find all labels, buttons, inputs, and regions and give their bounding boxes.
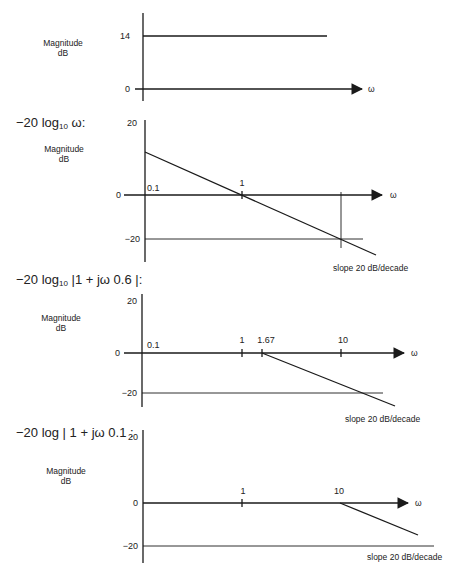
plot-integrator: −20 log10 ω: Magnitude dB 20 0 −20 ω 0.1…: [16, 115, 408, 273]
slope-line: [262, 353, 395, 406]
plot-title: −20 log10 ω:: [16, 115, 85, 131]
y-tick-0: 0: [133, 498, 138, 508]
y-tick-0: 0: [125, 84, 130, 94]
plot-constant: Magnitude dB 14 0 ω: [43, 13, 375, 101]
x-tick-10: 10: [338, 335, 348, 345]
slope-label: slope 20 dB/decade: [367, 552, 442, 562]
bode-diagram: Magnitude dB 14 0 ω −20 log10 ω: Magnitu…: [0, 0, 451, 563]
omega-label: ω: [390, 190, 397, 200]
y-axis-label: Magnitude: [43, 38, 83, 48]
y-tick-20: 20: [128, 432, 138, 442]
slope-label: slope 20 dB/decade: [333, 263, 408, 273]
y-tick-0: 0: [116, 190, 121, 200]
omega-label: ω: [415, 498, 422, 508]
x-tick-1: 1: [240, 486, 245, 496]
x-tick-0.1: 0.1: [147, 183, 160, 193]
y-tick-neg20: −20: [123, 541, 138, 551]
y-axis-unit: dB: [61, 476, 72, 486]
y-axis-label: Magnitude: [44, 144, 84, 154]
x-tick-1.67: 1.67: [257, 335, 275, 345]
y-tick-14: 14: [120, 31, 130, 41]
x-tick-1: 1: [239, 178, 244, 188]
slope-label: slope 20 dB/decade: [345, 414, 420, 424]
plot-title: −20 log | 1 + jω 0.1 :: [16, 425, 134, 440]
x-tick-10: 10: [334, 486, 344, 496]
y-axis-label: Magnitude: [41, 313, 81, 323]
y-tick-20: 20: [127, 296, 137, 306]
x-tick-0.1: 0.1: [147, 340, 160, 350]
omega-label: ω: [368, 84, 375, 94]
slope-line: [340, 503, 418, 535]
y-tick-20: 20: [127, 118, 137, 128]
y-tick-neg20: −20: [125, 234, 140, 244]
y-axis-unit: dB: [56, 323, 67, 333]
x-tick-1: 1: [239, 335, 244, 345]
plot-pole-10: −20 log | 1 + jω 0.1 : Magnitude dB 20 0…: [16, 425, 442, 563]
y-tick-0: 0: [115, 348, 120, 358]
y-axis-unit: dB: [59, 154, 70, 164]
plot-pole-1.67: −20 log10 |1 + jω 0.6 |: Magnitude dB 20…: [16, 272, 420, 424]
y-axis-label: Magnitude: [46, 466, 86, 476]
omega-label: ω: [411, 348, 418, 358]
y-axis-unit: dB: [58, 48, 69, 58]
plot-title: −20 log10 |1 + jω 0.6 |:: [16, 272, 142, 288]
y-tick-neg20: −20: [122, 388, 137, 398]
